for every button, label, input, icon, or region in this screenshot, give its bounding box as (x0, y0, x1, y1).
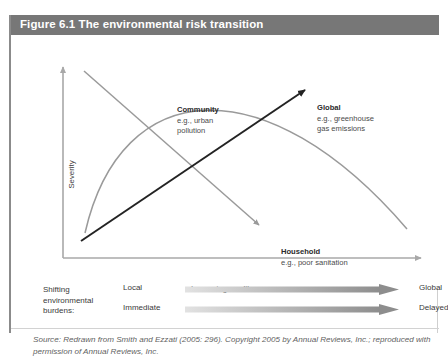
annotation-global-heading: Global (317, 103, 374, 114)
figure-title-bar: Figure 6.1 The environmental risk transi… (11, 15, 439, 35)
legend-row-0-end: Global (419, 283, 442, 292)
divider (11, 328, 439, 329)
chart-plot-area: Severity Increasing wealth Community e.g… (11, 35, 439, 288)
legend-row: Immediate Delayed (123, 303, 433, 316)
series-line-household (84, 71, 259, 225)
gradient-arrow-icon (185, 304, 409, 315)
annotation-global-line2: gas emissions (317, 124, 374, 135)
annotation-community-heading: Community (177, 105, 219, 116)
legend-row-0-start: Local (123, 283, 142, 292)
y-axis-label: Severity (67, 145, 76, 205)
page-title: Figure 6.1 The environmental risk transi… (20, 18, 263, 30)
annotation-household-heading: Household (281, 247, 348, 258)
legend-row-1-end: Delayed (419, 303, 448, 312)
legend-row-1-start: Immediate (123, 303, 160, 312)
legend-caption: Shifting environmental burdens: (43, 285, 121, 317)
source-note: Source: Redrawn from Smith and Ezzati (2… (33, 334, 443, 358)
annotation-household-line1: e.g., poor sanitation (281, 258, 348, 269)
annotation-community-line2: pollution (177, 126, 219, 137)
legend-row: Local Global (123, 283, 433, 296)
annotation-community: Community e.g., urban pollution (177, 105, 219, 137)
gradient-arrow-icon (185, 284, 409, 295)
annotation-community-line1: e.g., urban (177, 116, 219, 127)
annotation-global: Global e.g., greenhouse gas emissions (317, 103, 374, 135)
annotation-household: Household e.g., poor sanitation (281, 247, 348, 268)
burden-shift-legend: Shifting environmental burdens: Local Gl… (11, 281, 439, 325)
figure-container: Figure 6.1 The environmental risk transi… (9, 15, 438, 333)
annotation-global-line1: e.g., greenhouse (317, 114, 374, 125)
